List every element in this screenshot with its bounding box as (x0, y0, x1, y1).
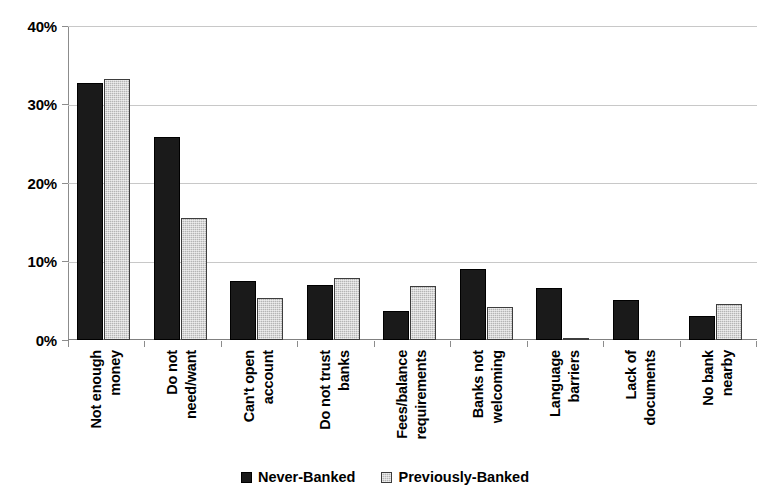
bar-group-lack-of-documents (604, 26, 681, 340)
y-axis-label-10: 10% (5, 254, 57, 269)
x-axis-tick-2 (221, 341, 222, 347)
legend-label-never-banked: Never-Banked (258, 470, 356, 485)
bar-group-language-barriers (527, 26, 604, 340)
y-axis-label-40: 40% (5, 19, 57, 34)
bar-never-banked-no-bank-nearby (689, 316, 715, 340)
bar-previously-banked-do-not-need-want (181, 218, 207, 341)
bar-group-fees-balance-requirements (374, 26, 451, 340)
x-axis-tick-9 (756, 341, 757, 347)
dark-square-icon (241, 472, 252, 483)
x-axis-tick-3 (297, 341, 298, 347)
x-axis-tick-6 (527, 341, 528, 347)
plot-area (68, 26, 757, 340)
x-axis-label-banks-not-welcoming: Banks not welcoming (469, 350, 509, 468)
bar-never-banked-banks-not-welcoming (460, 269, 486, 340)
x-axis-label-not-enough-money: Not enough money (87, 350, 127, 468)
legend-item-previously-banked: Previously-Banked (381, 470, 529, 485)
x-axis-label-language-barriers: Language barriers (546, 350, 586, 468)
bar-never-banked-fees-balance-requirements (383, 311, 409, 340)
x-axis-label-cant-open-account: Can't open account (240, 350, 280, 468)
bar-previously-banked-fees-balance-requirements (410, 286, 436, 340)
x-axis-label-do-not-trust-banks: Do not trust banks (316, 350, 356, 468)
light-square-icon (381, 472, 392, 483)
y-axis-label-20: 20% (5, 176, 57, 191)
bar-never-banked-language-barriers (536, 288, 562, 340)
bar-previously-banked-not-enough-money (104, 79, 130, 340)
bar-previously-banked-no-bank-nearby (716, 304, 742, 340)
bar-group-cant-open-account (221, 26, 298, 340)
x-axis-tick-5 (450, 341, 451, 347)
x-axis-label-do-not-need-want: Do not need/want (163, 350, 203, 468)
x-axis-tick-0 (68, 341, 69, 347)
legend-label-previously-banked: Previously-Banked (398, 470, 529, 485)
x-axis-tick-7 (603, 341, 604, 347)
bar-never-banked-cant-open-account (230, 281, 256, 340)
bar-group-do-not-trust-banks (298, 26, 375, 340)
bar-group-not-enough-money (68, 26, 145, 340)
bar-previously-banked-banks-not-welcoming (487, 307, 513, 340)
bar-previously-banked-do-not-trust-banks (334, 278, 360, 340)
bar-never-banked-do-not-trust-banks (307, 285, 333, 340)
bar-previously-banked-cant-open-account (257, 298, 283, 340)
bar-group-banks-not-welcoming (451, 26, 528, 340)
y-axis-label-30: 30% (5, 97, 57, 112)
x-axis-label-fees-balance-requirements: Fees/balance requirements (393, 350, 433, 468)
bar-group-do-not-need-want (145, 26, 222, 340)
legend-item-never-banked: Never-Banked (241, 470, 356, 485)
bar-never-banked-do-not-need-want (154, 137, 180, 340)
x-axis-label-lack-of-documents: Lack of documents (622, 350, 662, 468)
x-axis-label-no-bank-nearby: No bank nearby (699, 350, 739, 468)
chart-legend: Never-Banked Previously-Banked (0, 470, 770, 485)
bar-previously-banked-language-barriers (563, 338, 589, 341)
bar-group-no-bank-nearby (680, 26, 757, 340)
x-axis-tick-1 (144, 341, 145, 347)
bar-never-banked-lack-of-documents (613, 300, 639, 340)
bar-chart: 40% 30% 20% 10% 0% (0, 0, 770, 493)
x-axis-tick-8 (680, 341, 681, 347)
bar-never-banked-not-enough-money (77, 83, 103, 340)
x-axis-tick-4 (374, 341, 375, 347)
y-axis-label-0: 0% (5, 333, 57, 348)
